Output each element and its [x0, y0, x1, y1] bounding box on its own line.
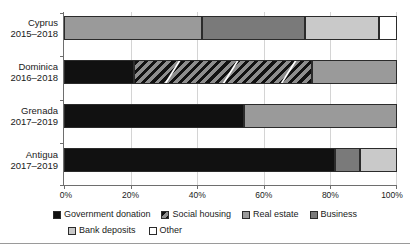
category-name: Dominica [10, 62, 58, 73]
bar-row[interactable] [64, 148, 397, 172]
legend-row-1: Government donation Social housing Real … [0, 208, 410, 221]
x-tick [264, 185, 265, 189]
legend-item-bank-deposits[interactable]: Bank deposits [68, 226, 136, 235]
category-period: 2015–2018 [10, 29, 58, 40]
x-tick-label-40: 40% [189, 190, 206, 200]
x-tick-label-60: 60% [255, 190, 272, 200]
bar-segment-social-housing[interactable] [134, 60, 312, 84]
x-tick [197, 185, 198, 189]
y-axis-line [63, 12, 64, 185]
x-tick-label-0: 0% [60, 190, 72, 200]
legend-item-real-estate[interactable]: Real estate [242, 210, 299, 219]
bar-segment-government-donation[interactable] [64, 148, 335, 172]
category-period: 2017–2019 [10, 161, 58, 172]
x-tick [64, 185, 65, 189]
x-tick [131, 185, 132, 189]
bar-segment-business[interactable] [202, 16, 305, 40]
x-tick-label-100: 100% [381, 190, 403, 200]
bar-segment-real-estate[interactable] [244, 104, 397, 128]
bar-row[interactable] [64, 16, 397, 40]
bar-segment-real-estate[interactable] [312, 60, 397, 84]
legend-label: Real estate [253, 210, 299, 219]
legend-label: Other [160, 226, 183, 235]
bottom-divider [0, 243, 410, 244]
bar-segment-bank-deposits[interactable] [360, 148, 397, 172]
hatch-break [221, 61, 238, 84]
bar-row[interactable] [64, 104, 397, 128]
hatch-break [279, 61, 296, 84]
x-tick [396, 185, 397, 189]
y-category-label-cyprus: Cyprus 2015–2018 [10, 18, 58, 39]
legend-row-2: Bank deposits Other [0, 224, 410, 237]
category-period: 2016–2018 [10, 73, 58, 84]
legend-label: Government donation [64, 210, 151, 219]
bar-segment-bank-deposits[interactable] [305, 16, 378, 40]
y-category-label-grenada: Grenada 2017–2019 [10, 106, 58, 127]
category-name: Antigua [10, 150, 58, 161]
y-tick [60, 143, 64, 144]
bar-segment-other[interactable] [379, 16, 397, 40]
legend-swatch-icon [53, 211, 61, 219]
bar-segment-real-estate[interactable] [64, 16, 202, 40]
stacked-bar-chart: 0% 20% 40% 60% 80% 100% Cyprus 2015–2018… [0, 0, 410, 249]
bar-segment-business[interactable] [335, 148, 360, 172]
bar-row[interactable] [64, 60, 397, 84]
chart-legend: Government donation Social housing Real … [0, 208, 410, 237]
category-name: Cyprus [10, 18, 58, 29]
x-axis-line [63, 185, 397, 186]
legend-label: Bank deposits [79, 226, 136, 235]
legend-item-social-housing[interactable]: Social housing [161, 210, 231, 219]
legend-item-government-donation[interactable]: Government donation [53, 210, 151, 219]
legend-swatch-icon [149, 227, 157, 235]
legend-swatch-icon [242, 211, 250, 219]
hatch-break [163, 61, 180, 84]
bar-segment-government-donation[interactable] [64, 104, 244, 128]
legend-swatch-icon [161, 211, 169, 219]
y-tick [60, 100, 64, 101]
legend-label: Business [321, 210, 358, 219]
y-tick [60, 13, 64, 14]
category-period: 2017–2019 [10, 117, 58, 128]
y-category-label-dominica: Dominica 2016–2018 [10, 62, 58, 83]
category-name: Grenada [10, 106, 58, 117]
x-tick-label-80: 80% [322, 190, 339, 200]
x-tick-label-20: 20% [122, 190, 139, 200]
legend-label: Social housing [172, 210, 231, 219]
legend-swatch-icon [310, 211, 318, 219]
legend-swatch-icon [68, 227, 76, 235]
y-category-label-antigua: Antigua 2017–2019 [10, 150, 58, 171]
legend-item-other[interactable]: Other [149, 226, 183, 235]
x-tick [330, 185, 331, 189]
y-tick [60, 56, 64, 57]
bar-segment-government-donation[interactable] [64, 60, 134, 84]
plot-area [64, 12, 397, 185]
legend-item-business[interactable]: Business [310, 210, 358, 219]
